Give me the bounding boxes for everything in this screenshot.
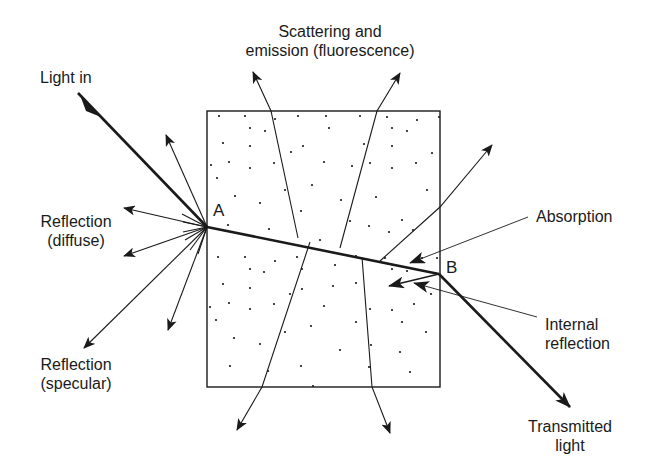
incident-light-ray	[78, 93, 207, 227]
incident-arrowhead-icon	[80, 95, 101, 117]
scattering-emission-label: Scattering and emission (fluorescence)	[215, 22, 445, 60]
refracted-ray-a-b	[207, 227, 439, 274]
scattering-rays	[237, 72, 492, 433]
reflection-specular-label: Reflection (specular)	[30, 355, 122, 393]
internal-reflection-ray	[389, 274, 439, 286]
scattering-label-line1: Scattering and	[215, 22, 445, 41]
reflection-diffuse-label: Reflection (diffuse)	[30, 212, 122, 250]
transmitted-light-line2: light	[518, 436, 622, 455]
reflection-specular-line2: (specular)	[30, 374, 122, 393]
label-leader-lines	[410, 217, 537, 317]
scattering-label-line2: emission (fluorescence)	[215, 41, 445, 60]
point-b-label: B	[446, 258, 457, 278]
reflection-diffuse-line1: Reflection	[30, 212, 122, 231]
internal-reflection-line1: Internal	[545, 315, 610, 334]
transmitted-light-line1: Transmitted	[518, 417, 622, 436]
internal-reflection-line2: reflection	[545, 334, 610, 353]
transmitted-light-label: Transmitted light	[518, 417, 622, 455]
internal-reflection-label: Internal reflection	[545, 315, 610, 353]
absorption-label: Absorption	[536, 207, 613, 226]
point-a-label: A	[213, 201, 224, 221]
reflection-specular-line1: Reflection	[30, 355, 122, 374]
reflection-diffuse-line2: (diffuse)	[30, 231, 122, 250]
sample-medium-box	[207, 111, 440, 387]
light-in-label: Light in	[40, 68, 92, 87]
